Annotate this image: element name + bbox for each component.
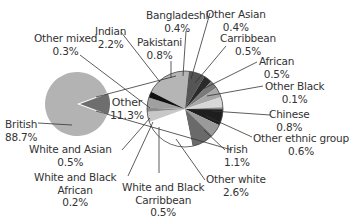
breakdown-pie	[147, 71, 223, 147]
label-name: Other mixed	[34, 32, 97, 45]
label-carribbean: Carribbean 0.5%	[220, 32, 276, 57]
label-value: 0.8%	[137, 49, 182, 62]
label-value: 11.3%	[110, 110, 144, 123]
label-name: Bangladeshi	[146, 9, 208, 22]
label-pakistani: Pakistani 0.8%	[137, 36, 182, 61]
label-name-2: Carribbean	[122, 194, 204, 207]
label-value: 0.5%	[29, 156, 112, 169]
label-name: Pakistani	[137, 36, 182, 49]
label-value: 0.2%	[34, 196, 116, 209]
label-other-black: Other Black 0.1%	[265, 80, 324, 105]
label-white-and-black-african: White and Black African 0.2%	[34, 171, 116, 209]
label-other-ethnic-group: Other ethnic group 0.6%	[253, 132, 349, 157]
label-value: 0.6%	[253, 145, 349, 158]
label-other: Other 11.3%	[110, 97, 144, 122]
label-name: British	[5, 118, 37, 131]
label-british: British 88.7%	[5, 118, 37, 143]
label-bangladeshi: Bangladeshi 0.4%	[146, 9, 208, 34]
label-name: Other Asian	[206, 8, 266, 21]
label-chinese: Chinese 0.8%	[269, 108, 310, 133]
label-name: Indian	[95, 25, 126, 38]
label-white-and-asian: White and Asian 0.5%	[29, 143, 112, 168]
label-name: White and Asian	[29, 143, 112, 156]
label-value: 0.5%	[259, 68, 294, 81]
label-value: 2.6%	[206, 186, 266, 199]
main-pie	[45, 72, 110, 136]
label-value: 88.7%	[5, 131, 37, 144]
label-name: Other ethnic group	[253, 132, 349, 145]
label-value: 1.1%	[224, 156, 250, 169]
label-name: Irish	[224, 143, 250, 156]
label-other-asian: Other Asian 0.4%	[206, 8, 266, 33]
label-white-and-black-carribbean: White and Black Carribbean 0.5%	[122, 181, 204, 219]
label-value: 0.1%	[265, 93, 324, 106]
label-value: 0.5%	[122, 206, 204, 219]
label-name: White and Black	[34, 171, 116, 184]
label-value: 0.4%	[146, 22, 208, 35]
label-name-2: African	[34, 184, 116, 197]
label-name: White and Black	[122, 181, 204, 194]
label-irish: Irish 1.1%	[224, 143, 250, 168]
label-name: Other	[110, 97, 144, 110]
label-other-white: Other white 2.6%	[206, 173, 266, 198]
label-name: African	[259, 55, 294, 68]
label-name: Other white	[206, 173, 266, 186]
label-value: 0.3%	[34, 45, 97, 58]
label-indian: Indian 2.2%	[95, 25, 126, 50]
label-name: Chinese	[269, 108, 310, 121]
label-other-mixed: Other mixed 0.3%	[34, 32, 97, 57]
label-value: 2.2%	[95, 38, 126, 51]
label-name: Carribbean	[220, 32, 276, 45]
label-name: Other Black	[265, 80, 324, 93]
label-african: African 0.5%	[259, 55, 294, 80]
